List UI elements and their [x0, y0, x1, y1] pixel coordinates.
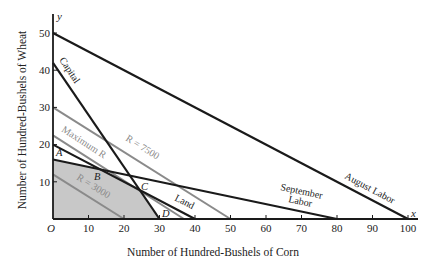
svg-text:40: 40 [190, 222, 202, 234]
y-var-label: y [56, 10, 62, 22]
capital-label: Capital [57, 55, 82, 85]
linear-programming-chart: 10 20 30 40 50 60 70 80 90 100 10 20 30 … [0, 0, 437, 268]
svg-text:50: 50 [225, 222, 237, 234]
svg-text:90: 90 [367, 222, 379, 234]
svg-text:50: 50 [39, 27, 51, 39]
svg-text:70: 70 [296, 222, 308, 234]
svg-text:D: D [161, 208, 170, 219]
x-var-label: x [410, 207, 416, 219]
y-axis-title: Number of Hundred-Bushels of Wheat [16, 30, 28, 209]
svg-text:20: 20 [119, 222, 131, 234]
y-tick-labels: 10 20 30 40 50 [39, 27, 51, 188]
svg-text:60: 60 [261, 222, 273, 234]
svg-text:100: 100 [400, 222, 417, 234]
svg-text:40: 40 [39, 64, 51, 76]
r7500-label: R = 7500 [124, 132, 161, 161]
origin-label: O [47, 222, 55, 234]
svg-text:30: 30 [39, 101, 51, 113]
chart-container: 10 20 30 40 50 60 70 80 90 100 10 20 30 … [0, 0, 437, 268]
x-tick-labels: 10 20 30 40 50 60 70 80 90 100 [83, 222, 417, 234]
svg-text:30: 30 [154, 222, 166, 234]
x-axis-title: Number of Hundred-Bushels of Corn [127, 246, 299, 258]
svg-text:20: 20 [39, 138, 51, 150]
svg-text:A: A [55, 147, 63, 158]
svg-text:80: 80 [332, 222, 344, 234]
svg-text:C: C [141, 181, 149, 192]
svg-text:10: 10 [39, 176, 51, 188]
svg-text:10: 10 [83, 222, 95, 234]
